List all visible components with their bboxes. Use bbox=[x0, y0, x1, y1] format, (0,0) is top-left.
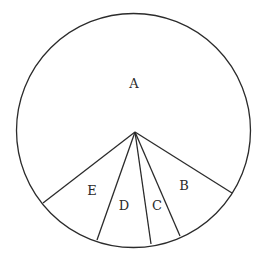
pie-svg: ABCDE bbox=[0, 0, 263, 258]
sector-label-c: C bbox=[152, 198, 162, 213]
pie-diagram: ABCDE bbox=[0, 0, 263, 258]
spokes-group bbox=[43, 132, 232, 244]
sector-label-d: D bbox=[119, 198, 129, 213]
sector-label-b: B bbox=[179, 178, 189, 193]
spoke-d-left bbox=[97, 132, 135, 240]
labels-group: ABCDE bbox=[87, 76, 189, 213]
spoke-b-left bbox=[135, 132, 180, 236]
sector-label-a: A bbox=[128, 76, 139, 91]
sector-label-e: E bbox=[87, 183, 97, 198]
outer-circle bbox=[17, 14, 251, 248]
spoke-c-left bbox=[135, 132, 151, 244]
